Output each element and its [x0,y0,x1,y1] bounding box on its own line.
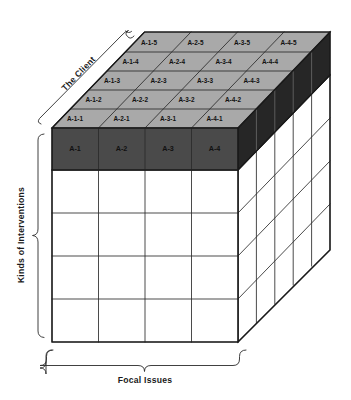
top-cell-label: A-3-2 [179,96,195,103]
top-cell-label: A-1-4 [123,58,139,65]
top-cell-label: A-2-1 [114,115,130,122]
interventions-axis-brace [33,134,45,338]
front-cell-label: A-1 [69,144,81,153]
front-cell-label: A-4 [209,144,221,153]
top-cell-label: A-4-4 [262,58,278,65]
front-cell-label: A-2 [116,144,128,153]
top-cell-label: A-3-3 [197,77,213,84]
top-cell-label: A-1-5 [141,39,157,46]
front-face-group: A-1 A-2 A-3 A-4 [52,128,238,342]
top-cell-label: A-2-5 [188,39,204,46]
interventions-axis-group: Kinds of Interventions [16,134,44,338]
top-cell-label: A-4-3 [244,77,260,84]
top-cell-label: A-1-3 [104,77,120,84]
top-cell-label: A-2-3 [151,77,167,84]
front-cell-label: A-3 [162,144,174,153]
top-cell-label: A-3-5 [234,39,250,46]
issues-axis-label: Focal Issues [118,375,173,385]
top-cell-label: A-1-1 [67,115,83,122]
top-cell-label: A-3-1 [160,115,176,122]
interventions-axis-label: Kinds of Interventions [16,187,26,283]
top-cell-label: A-1-2 [86,96,102,103]
top-cell-label: A-2-2 [132,96,148,103]
top-cell-label: A-4-2 [225,96,241,103]
top-cell-label: A-2-4 [169,58,185,65]
top-cell-label: A-3-4 [216,58,232,65]
cube-diagram: A-1-1 A-2-1 A-3-1 A-4-1 A-1-2 A-2-2 A-3-… [0,0,351,400]
issues-axis-group: Focal Issues [40,350,246,385]
issues-axis-brace-main [40,350,246,372]
top-cell-label: A-4-5 [281,39,297,46]
top-cell-label: A-4-1 [207,115,223,122]
diagram-canvas: A-1-1 A-2-1 A-3-1 A-4-1 A-1-2 A-2-2 A-3-… [0,0,351,400]
